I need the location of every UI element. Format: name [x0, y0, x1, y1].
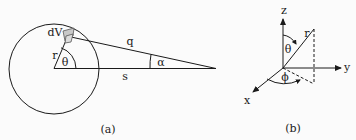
- panel-a: [9, 24, 216, 114]
- label-r-a: r: [52, 50, 57, 61]
- diagram-canvas: [0, 0, 356, 140]
- alpha-arc: [150, 55, 151, 69]
- label-z: z: [281, 5, 287, 16]
- label-alpha: α: [157, 57, 164, 68]
- label-phi: ϕ: [281, 72, 289, 83]
- label-q: q: [126, 36, 133, 47]
- label-x: x: [244, 95, 250, 106]
- label-y: y: [344, 62, 350, 73]
- label-s: s: [122, 71, 128, 82]
- label-theta-b: θ: [285, 44, 292, 55]
- panel-b: [253, 19, 341, 92]
- caption-b: (b): [285, 123, 301, 134]
- label-dV: dV: [48, 27, 63, 38]
- figure: dV r θ q s α (a) z y x r θ ϕ (b): [0, 0, 356, 140]
- q-line: [71, 37, 216, 69]
- caption-a: (a): [100, 124, 115, 135]
- label-theta-a: θ: [62, 57, 69, 68]
- label-r-b: r: [304, 28, 309, 39]
